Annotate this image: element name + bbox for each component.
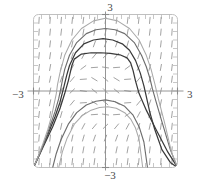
slope-field-figure: 3 −3 −3 3 — [0, 0, 202, 191]
plot-canvas — [0, 0, 202, 191]
